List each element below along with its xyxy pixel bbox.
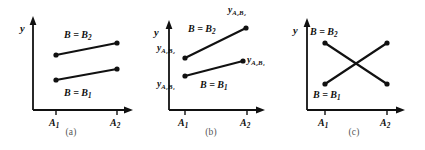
panel-c-caption: (c) [283, 127, 425, 137]
panel-b-y-axis-label: y [154, 28, 159, 39]
panel-c-label-b1: B = B1 [313, 90, 341, 102]
y-axis [30, 16, 37, 110]
x-axis [169, 107, 265, 114]
panel-b-label-b1: B = B1 [200, 80, 228, 92]
panel-b-label-b2: B = B2 [188, 24, 216, 36]
panel-a-label-b2: B = B2 [64, 30, 92, 42]
x-axis [33, 107, 133, 114]
series-line-b1 [53, 66, 119, 82]
panel-b: y B = B2 B = B1 yA₁B₂ yA₂B₂ yA₁B₁ yA₂B₁ … [140, 0, 282, 150]
panel-a: y B = B2 B = B1 A1 A2 (a) [0, 0, 142, 150]
x-axis [307, 107, 405, 114]
interaction-plots-figure: y B = B2 B = B1 A1 A2 (a) [0, 0, 425, 150]
panel-a-caption: (a) [0, 127, 142, 137]
panel-b-point-label-a2b1: yA₂B₁ [247, 56, 265, 66]
panel-c-label-b2: B = B2 [310, 27, 338, 39]
panel-a-y-axis-label: y [20, 24, 25, 35]
panel-c: y B = B2 B = B1 A1 A2 (c) [283, 0, 425, 150]
panel-a-label-b1: B = B1 [64, 88, 92, 100]
panel-b-caption: (b) [140, 127, 282, 137]
panel-b-point-label-a1b1: yA₁B₁ [157, 80, 175, 90]
series-line-b1 [182, 58, 245, 78]
panel-b-point-label-a2b2: yA₂B₂ [228, 6, 246, 16]
panel-b-point-label-a1b2: yA₁B₂ [157, 44, 175, 54]
panel-c-y-axis-label: y [293, 26, 298, 37]
series-line-b2 [53, 40, 119, 57]
y-axis [166, 20, 173, 110]
